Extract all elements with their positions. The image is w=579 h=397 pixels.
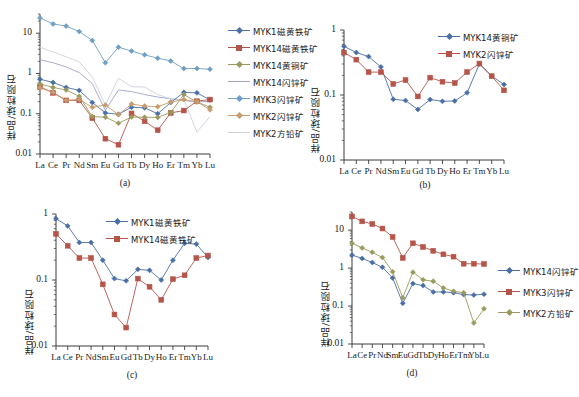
legend-color-swatch [228,77,250,86]
y-axis-tick-label: 0.1 [14,274,48,284]
legend-color-swatch [438,32,460,41]
panel-a-label: (a) [95,178,155,188]
y-axis-tick-label: 0.01 [302,154,336,164]
panel-d-label: (d) [382,368,442,378]
y-axis-tick-label: 0.01 [0,148,32,158]
legend-color-swatch [498,308,520,317]
y-axis-tick-label: 0.01 [14,340,48,350]
y-axis-tick-label: 1 [302,24,336,34]
data-series [350,241,487,326]
panel-d-legend: MYK14闪锌矿MYK3闪锌矿MYK2方铅矿 [498,260,579,323]
panel-c-label: (c) [102,370,162,380]
legend-item-label: MYK14磁黄铁矿 [131,233,196,245]
data-series [38,15,213,71]
data-series [38,81,213,125]
panel-c-legend: MYK1磁黄铁矿MYK14磁黄铁矿 [106,213,196,247]
panel-c: 样品/球粒陨石 0.010.11LaCePrNdSmEuGdTbDyHoErTm… [0,198,290,397]
y-axis-tick-label: 0.1 [302,89,336,99]
legend-item-label: MYK2闪锌矿 [463,48,514,60]
legend-color-swatch [438,49,460,58]
legend-color-swatch [106,217,128,226]
legend-item-label: MYK3闪锌矿 [523,286,574,298]
panel-a: 样品/球粒陨石 0.010.1110LaCePrNdSmEuGdTbDyHoEr… [0,0,290,198]
y-axis-tick-label: 1 [310,262,344,272]
data-series [350,253,487,306]
legend-item[interactable]: MYK2闪锌矿 [438,45,519,62]
legend-color-swatch [106,234,128,243]
panel-d-y-axis-label: 样品/球粒陨石 [319,242,333,347]
legend-color-swatch [498,287,520,296]
data-series [38,84,213,147]
panel-b-legend: MYK14黄铜矿MYK2闪锌矿 [438,28,519,62]
panel-a-plot-area: 0.010.1110LaCePrNdSmEuGdTbDyHoErTmYbLu [40,14,210,154]
panel-b-label: (b) [395,180,455,190]
x-axis-tick-label: Lu [471,350,497,360]
y-axis-tick-label: 0.1 [0,108,32,118]
x-axis-tick-label: Lu [195,352,221,362]
legend-color-swatch [228,60,250,69]
legend-color-swatch [228,111,250,120]
legend-color-swatch [228,43,250,52]
legend-item-label: MYK14黄铜矿 [463,31,519,43]
x-axis-tick-label: Lu [491,166,517,176]
y-axis-tick-label: 0.1 [310,300,344,310]
panel-b-y-axis-label: 样品/球粒陨石 [309,48,323,153]
legend-item[interactable]: MYK14黄铜矿 [438,28,519,45]
y-axis-tick-label: 0.01 [310,338,344,348]
legend-item[interactable]: MYK3闪锌矿 [498,281,579,302]
panel-b: 样品/球粒陨石 0.010.11LaCePrNdSmEuGdTbDyHoErTm… [290,0,575,198]
legend-color-swatch [498,266,520,275]
legend-item[interactable]: MYK14闪锌矿 [498,260,579,281]
data-series [350,214,487,266]
panel-d: 样品/球粒陨石 0.010.1110LaCePrNdSmEuGdTbDyHoEr… [290,198,575,397]
legend-item[interactable]: MYK2方铅矿 [498,302,579,323]
legend-color-swatch [228,128,250,137]
y-axis-tick-label: 10 [0,27,32,37]
legend-item-label: MYK2方铅矿 [523,307,574,319]
legend-item-label: MYK1磁黄铁矿 [131,216,191,228]
legend-color-swatch [228,94,250,103]
x-axis-tick-label: Lu [197,160,223,170]
legend-item[interactable]: MYK14磁黄铁矿 [106,230,196,247]
y-axis-tick-label: 10 [310,224,344,234]
legend-item-label: MYK14闪锌矿 [523,265,579,277]
panel-a-y-axis-label: 样品/球粒陨石 [5,30,19,140]
legend-item[interactable]: MYK1磁黄铁矿 [106,213,196,230]
y-axis-tick-label: 1 [14,208,48,218]
panel-d-plot-area: 0.010.1110LaCePrNdSmEuGdTbDyHoErTmYbLu [352,212,484,344]
legend-color-swatch [228,26,250,35]
y-axis-tick-label: 1 [0,67,32,77]
